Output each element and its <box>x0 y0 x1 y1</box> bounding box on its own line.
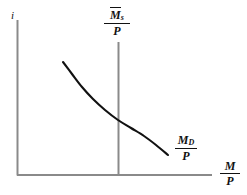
money-demand-curve <box>63 62 168 155</box>
money-supply-denominator: P <box>104 24 130 37</box>
money-demand-numerator: MD <box>175 134 197 148</box>
money-demand-subscript: D <box>188 138 194 147</box>
y-axis-label: i <box>11 10 14 21</box>
x-axis-denominator: P <box>220 174 240 187</box>
money-demand-label: MD P <box>175 134 197 162</box>
money-supply-label: Ms P <box>104 9 130 37</box>
money-supply-numerator-letter: M <box>110 8 121 22</box>
money-supply-numerator: Ms <box>104 9 130 23</box>
money-demand-numerator-letter: M <box>178 133 189 147</box>
overbar-wrap: M <box>110 9 121 21</box>
money-demand-denominator: P <box>175 149 197 162</box>
money-market-diagram: i Ms P MD P M P <box>0 0 247 195</box>
money-supply-subscript: s <box>121 13 124 22</box>
x-axis-label: M P <box>220 160 240 187</box>
x-axis-numerator: M <box>220 160 240 173</box>
